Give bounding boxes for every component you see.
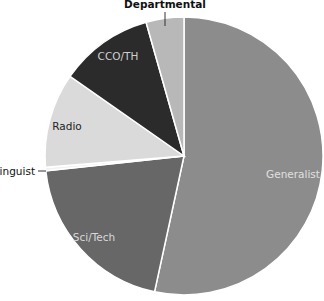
label-radio: Radio — [52, 120, 82, 132]
label-departmental: Departmental — [124, 0, 206, 10]
label-linguist: Linguist — [0, 165, 35, 177]
pie-chart: Departmental CCO/TH Radio Linguist Gener… — [0, 0, 324, 301]
label-generalist: Generalist — [266, 168, 320, 180]
label-sci-tech: Sci/Tech — [73, 231, 115, 243]
label-cco-th: CCO/TH — [98, 50, 139, 62]
pie-slices — [45, 17, 323, 295]
